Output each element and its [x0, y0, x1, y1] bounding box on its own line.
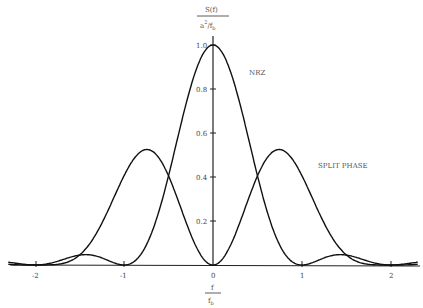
- psd-chart: 0.2 0.4 0.6 0.8 1.0 -2 -1 0 1 2 NRZ SPLI…: [0, 0, 423, 308]
- y-axis-label-denominator: a2/fb: [200, 19, 216, 31]
- x-tick-minus-1: -1: [120, 272, 127, 280]
- y-tick-0.2: 0.2: [196, 218, 207, 226]
- y-tick-0.6: 0.6: [196, 130, 208, 138]
- y-tick-0.8: 0.8: [196, 86, 207, 94]
- y-tick-0.4: 0.4: [196, 174, 208, 182]
- y-axis-label-numerator: S(f): [205, 6, 218, 14]
- x-tick-1: 1: [300, 272, 304, 280]
- x-axis-label-numerator: f: [211, 284, 215, 292]
- x-tick-0: 0: [211, 272, 215, 280]
- x-axis-label-denominator: fb: [208, 297, 214, 306]
- y-tick-1.0: 1.0: [196, 42, 207, 50]
- nrz-label: NRZ: [249, 69, 265, 77]
- x-tick-minus-2: -2: [32, 272, 39, 280]
- x-tick-2: 2: [389, 272, 393, 280]
- split-phase-label: SPLIT PHASE: [318, 162, 368, 170]
